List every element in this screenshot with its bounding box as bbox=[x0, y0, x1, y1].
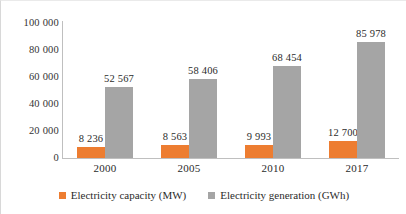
y-axis-tick-label: 100 000 bbox=[1, 18, 59, 28]
bar-capacity[interactable] bbox=[329, 141, 357, 158]
bar-capacity[interactable] bbox=[161, 145, 189, 158]
y-axis-tick-label: 40 000 bbox=[1, 99, 59, 109]
bar-group: 8 23652 567 bbox=[63, 23, 147, 158]
bar-value-label: 68 454 bbox=[261, 52, 313, 63]
plot-area: 8 23652 5678 56358 4069 99368 45412 7008… bbox=[63, 23, 399, 158]
legend-item-label: Electricity generation (GWh) bbox=[220, 189, 349, 201]
chart-legend: Electricity capacity (MW)Electricity gen… bbox=[1, 189, 406, 201]
legend-item[interactable]: Electricity generation (GWh) bbox=[208, 189, 349, 201]
legend-item[interactable]: Electricity capacity (MW) bbox=[59, 189, 186, 201]
bar-generation[interactable] bbox=[273, 66, 301, 158]
bar-value-label: 52 567 bbox=[93, 73, 145, 84]
y-axis-tick-label: 60 000 bbox=[1, 72, 59, 82]
x-axis-tick-label: 2017 bbox=[315, 162, 399, 174]
legend-swatch-capacity-icon bbox=[59, 192, 66, 199]
bar-group: 12 70085 978 bbox=[315, 23, 399, 158]
bar-capacity[interactable] bbox=[77, 147, 105, 158]
legend-swatch-generation-icon bbox=[208, 192, 215, 199]
y-axis-tick-label: 20 000 bbox=[1, 126, 59, 136]
x-axis-tick-label: 2005 bbox=[147, 162, 231, 174]
x-axis-tick-label: 2000 bbox=[63, 162, 147, 174]
bar-group: 9 99368 454 bbox=[231, 23, 315, 158]
y-axis-tick-label: 0 bbox=[1, 153, 59, 163]
bar-generation[interactable] bbox=[357, 42, 385, 158]
x-axis-line bbox=[62, 158, 399, 159]
bar-generation[interactable] bbox=[105, 87, 133, 158]
legend-item-label: Electricity capacity (MW) bbox=[71, 189, 186, 201]
bar-group-bars: 8 23652 567 bbox=[63, 23, 147, 158]
y-axis-tick-labels: 020 00040 00060 00080 000100 000 bbox=[1, 1, 59, 214]
bar-group-bars: 8 56358 406 bbox=[147, 23, 231, 158]
x-axis-tick-label: 2010 bbox=[231, 162, 315, 174]
bar-group-bars: 12 70085 978 bbox=[315, 23, 399, 158]
bar-value-label: 85 978 bbox=[345, 28, 397, 39]
y-axis-tick-label: 80 000 bbox=[1, 45, 59, 55]
bar-group-bars: 9 99368 454 bbox=[231, 23, 315, 158]
bar-group: 8 56358 406 bbox=[147, 23, 231, 158]
bar-chart: 020 00040 00060 00080 000100 000 8 23652… bbox=[0, 0, 406, 214]
bar-value-label: 58 406 bbox=[177, 65, 229, 76]
bar-generation[interactable] bbox=[189, 79, 217, 158]
bar-capacity[interactable] bbox=[245, 145, 273, 158]
